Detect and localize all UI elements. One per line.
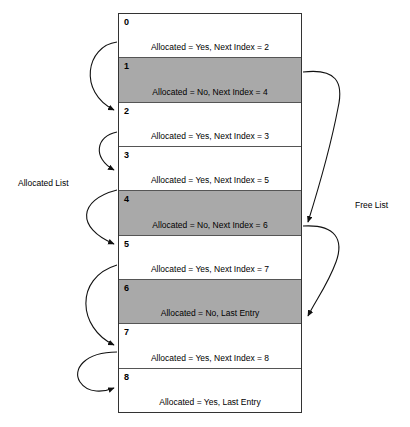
row-detail: Allocated = Yes, Next Index = 5 — [119, 175, 301, 185]
allocated-link-2-to-3 — [99, 132, 117, 170]
allocated-link-3-to-5 — [87, 190, 117, 244]
table-row[interactable]: 4 Allocated = No, Next Index = 6 — [119, 191, 301, 235]
row-index: 5 — [124, 239, 129, 249]
memory-table: 0 Allocated = Yes, Next Index = 2 1 Allo… — [118, 13, 302, 413]
row-detail: Allocated = Yes, Next Index = 8 — [119, 353, 301, 363]
row-detail: Allocated = Yes, Next Index = 7 — [119, 264, 301, 274]
row-detail: Allocated = Yes, Last Entry — [119, 397, 301, 407]
row-index: 2 — [124, 106, 129, 116]
free-list-label: Free List — [355, 200, 388, 210]
table-row[interactable]: 5 Allocated = Yes, Next Index = 7 — [119, 236, 301, 280]
allocated-list-label: Allocated List — [18, 178, 69, 188]
table-row[interactable]: 2 Allocated = Yes, Next Index = 3 — [119, 103, 301, 147]
table-row[interactable]: 0 Allocated = Yes, Next Index = 2 — [119, 14, 301, 58]
table-row[interactable]: 1 Allocated = No, Next Index = 4 — [119, 58, 301, 102]
free-link-1-to-4 — [303, 71, 340, 222]
row-index: 6 — [124, 283, 129, 293]
allocated-link-7-to-8 — [78, 352, 117, 391]
row-detail: Allocated = No, Next Index = 4 — [119, 87, 301, 97]
row-detail: Allocated = No, Last Entry — [119, 308, 301, 318]
row-index: 4 — [124, 194, 129, 204]
table-row[interactable]: 3 Allocated = Yes, Next Index = 5 — [119, 147, 301, 191]
table-row[interactable]: 8 Allocated = Yes, Last Entry — [119, 369, 301, 412]
row-index: 3 — [124, 150, 129, 160]
row-detail: Allocated = Yes, Next Index = 3 — [119, 131, 301, 141]
allocated-link-5-to-7 — [86, 265, 117, 345]
memory-allocation-diagram: 0 Allocated = Yes, Next Index = 2 1 Allo… — [0, 0, 410, 427]
row-index: 8 — [124, 372, 129, 382]
row-index: 0 — [124, 17, 129, 27]
row-index: 7 — [124, 327, 129, 337]
row-detail: Allocated = No, Next Index = 6 — [119, 220, 301, 230]
row-detail: Allocated = Yes, Next Index = 2 — [119, 42, 301, 52]
allocated-link-0-to-2 — [90, 42, 117, 110]
table-row[interactable]: 7 Allocated = Yes, Next Index = 8 — [119, 324, 301, 368]
free-link-4-to-6 — [303, 226, 339, 316]
table-row[interactable]: 6 Allocated = No, Last Entry — [119, 280, 301, 324]
row-index: 1 — [124, 61, 129, 71]
